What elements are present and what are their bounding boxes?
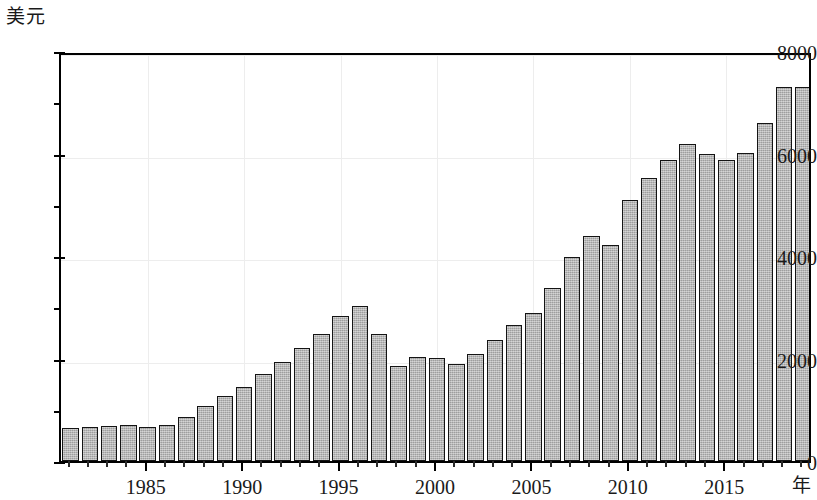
- bar: [544, 288, 561, 461]
- x-tick-major: [627, 461, 629, 471]
- y-tick-minor: [54, 103, 61, 105]
- x-tick-minor: [704, 461, 706, 467]
- x-tick-minor: [743, 461, 745, 467]
- x-tick-minor: [762, 461, 764, 467]
- bar: [101, 426, 118, 461]
- x-tick-major: [723, 461, 725, 471]
- x-tick-minor: [87, 461, 89, 467]
- y-tick-label: 8000: [765, 43, 817, 63]
- x-tick-minor: [550, 461, 552, 467]
- bar: [429, 358, 446, 461]
- bar: [313, 334, 330, 461]
- x-tick-minor: [395, 461, 397, 467]
- plot-area: [59, 53, 811, 463]
- x-tick-minor: [569, 461, 571, 467]
- x-tick-minor: [222, 461, 224, 467]
- bar: [525, 313, 542, 461]
- x-tick-label: 2000: [415, 476, 455, 498]
- x-tick-minor: [800, 461, 802, 467]
- bar: [448, 364, 465, 461]
- y-tick-major: [54, 257, 65, 259]
- y-tick-label: 2000: [765, 351, 817, 371]
- bar: [82, 427, 99, 461]
- y-tick-minor: [54, 411, 61, 413]
- bar: [641, 178, 658, 461]
- bar: [718, 160, 735, 461]
- bar: [506, 325, 523, 461]
- x-tick-minor: [685, 461, 687, 467]
- bars-layer: [61, 55, 809, 461]
- x-tick-major: [145, 461, 147, 471]
- x-tick-minor: [646, 461, 648, 467]
- x-tick-major: [530, 461, 532, 471]
- x-tick-label: 1995: [319, 476, 359, 498]
- bar: [139, 427, 156, 461]
- bar: [159, 425, 176, 461]
- x-tick-minor: [280, 461, 282, 467]
- bar-chart: 美元 02000400060008000 1985199019952000200…: [0, 0, 817, 500]
- bar: [622, 200, 639, 461]
- bar: [602, 245, 619, 461]
- y-tick-major: [54, 360, 65, 362]
- x-tick-minor: [473, 461, 475, 467]
- bar: [487, 340, 504, 461]
- x-tick-minor: [318, 461, 320, 467]
- y-tick-minor: [54, 206, 61, 208]
- bar: [467, 354, 484, 461]
- bar: [62, 428, 79, 461]
- x-tick-minor: [299, 461, 301, 467]
- x-tick-major: [241, 461, 243, 471]
- y-axis-title: 美元: [6, 6, 45, 28]
- bar: [776, 87, 793, 461]
- y-tick-label: 6000: [765, 146, 817, 166]
- x-tick-minor: [511, 461, 513, 467]
- x-axis-title: 年: [792, 475, 811, 497]
- x-tick-minor: [608, 461, 610, 467]
- y-tick-major: [54, 155, 65, 157]
- x-tick-minor: [183, 461, 185, 467]
- bar: [197, 406, 214, 461]
- bar: [583, 236, 600, 462]
- x-tick-minor: [357, 461, 359, 467]
- bar: [564, 257, 581, 461]
- x-tick-minor: [453, 461, 455, 467]
- bar: [352, 306, 369, 461]
- bar: [390, 366, 407, 461]
- bar: [332, 316, 349, 461]
- x-tick-minor: [164, 461, 166, 467]
- bar: [178, 417, 195, 461]
- x-tick-minor: [125, 461, 127, 467]
- bar: [409, 357, 426, 461]
- x-tick-minor: [203, 461, 205, 467]
- x-tick-minor: [665, 461, 667, 467]
- x-tick-label: 1985: [126, 476, 166, 498]
- x-tick-minor: [68, 461, 70, 467]
- x-tick-minor: [588, 461, 590, 467]
- bar: [371, 334, 388, 461]
- y-tick-minor: [54, 308, 61, 310]
- x-tick-label: 2010: [608, 476, 648, 498]
- bar: [757, 123, 774, 461]
- x-tick-minor: [376, 461, 378, 467]
- bar: [737, 153, 754, 461]
- bar: [660, 160, 677, 461]
- x-tick-minor: [415, 461, 417, 467]
- bar: [120, 425, 137, 461]
- x-tick-major: [338, 461, 340, 471]
- x-tick-minor: [492, 461, 494, 467]
- x-tick-minor: [106, 461, 108, 467]
- y-tick-major: [54, 52, 65, 54]
- bar: [217, 396, 234, 461]
- bar: [679, 144, 696, 461]
- bar: [795, 87, 811, 461]
- x-tick-minor: [781, 461, 783, 467]
- x-tick-label: 2005: [511, 476, 551, 498]
- x-tick-minor: [260, 461, 262, 467]
- bar: [255, 374, 272, 461]
- x-tick-major: [434, 461, 436, 471]
- bar: [236, 387, 253, 461]
- bar: [274, 362, 291, 461]
- bar: [699, 154, 716, 461]
- x-tick-label: 1990: [222, 476, 262, 498]
- bar: [294, 348, 311, 461]
